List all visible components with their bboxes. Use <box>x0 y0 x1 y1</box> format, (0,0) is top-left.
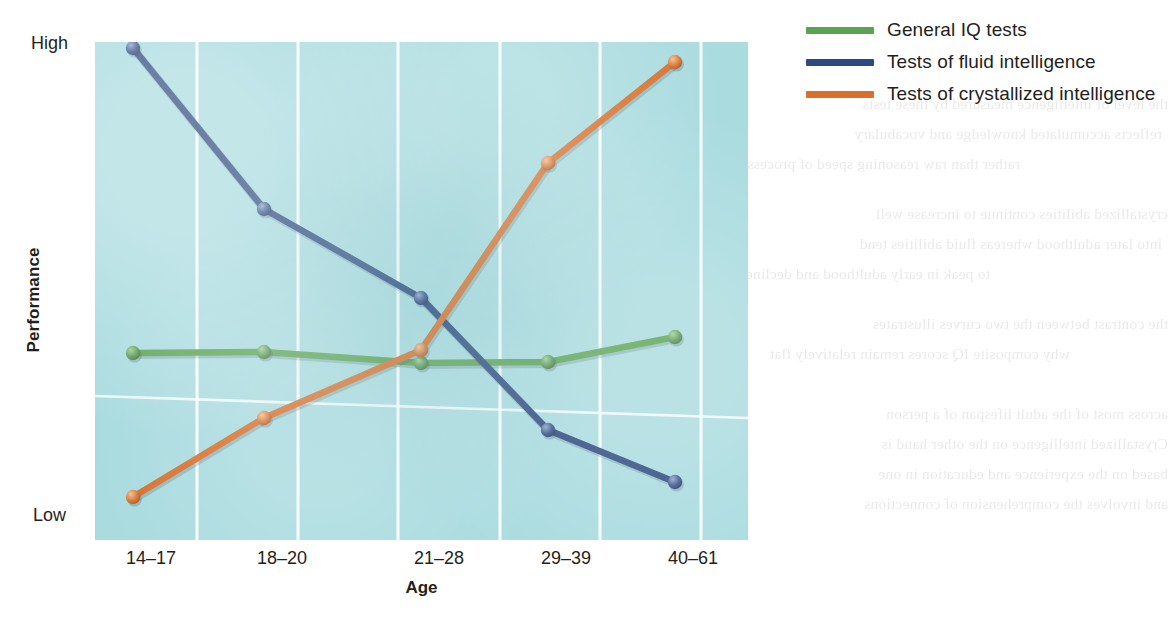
data-point-1-2[interactable] <box>414 291 428 305</box>
data-point-2-2[interactable] <box>414 343 428 357</box>
series-line-1 <box>133 48 675 482</box>
legend-label-fluid: Tests of fluid intelligence <box>887 51 1096 73</box>
series-line-shadow-1 <box>135 50 677 484</box>
data-point-0-3[interactable] <box>541 355 555 369</box>
legend-item-crystallized[interactable]: Tests of crystallized intelligence <box>806 82 1155 106</box>
data-point-1-1[interactable] <box>257 202 271 216</box>
x-tick-label-4: 40–61 <box>668 548 718 569</box>
y-axis-title: Performance <box>24 240 44 360</box>
data-point-1-3[interactable] <box>541 423 555 437</box>
plot-svg <box>95 42 748 540</box>
series-lines-group <box>133 48 677 499</box>
legend-swatch-fluid <box>806 59 874 66</box>
legend-label-crystallized: Tests of crystallized intelligence <box>887 83 1155 105</box>
x-axis-tick-labels: 14–1718–2021–2829–3940–61 <box>95 548 748 572</box>
data-point-2-3[interactable] <box>541 156 555 170</box>
horizontal-gridline <box>95 396 748 418</box>
legend-swatch-crystallized <box>806 91 874 98</box>
x-axis-title: Age <box>95 578 748 598</box>
legend-item-fluid[interactable]: Tests of fluid intelligence <box>806 50 1155 74</box>
chart-legend: General IQ testsTests of fluid intellige… <box>806 18 1155 106</box>
legend-swatch-general-iq <box>806 27 874 34</box>
x-tick-label-2: 21–28 <box>414 548 464 569</box>
legend-item-general-iq[interactable]: General IQ tests <box>806 18 1155 42</box>
data-point-0-0[interactable] <box>126 346 140 360</box>
data-point-2-1[interactable] <box>257 411 271 425</box>
data-point-2-0[interactable] <box>126 490 140 504</box>
data-point-2-4[interactable] <box>668 55 682 69</box>
legend-label-general-iq: General IQ tests <box>887 19 1027 41</box>
y-axis-low-label: Low <box>33 505 66 526</box>
data-point-0-4[interactable] <box>668 330 682 344</box>
x-tick-label-0: 14–17 <box>126 548 176 569</box>
data-point-0-1[interactable] <box>257 345 271 359</box>
x-tick-label-1: 18–20 <box>257 548 307 569</box>
plot-area <box>95 42 748 540</box>
data-point-1-4[interactable] <box>668 475 682 489</box>
figure-container: High Low Performance <box>0 0 1176 633</box>
y-axis-high-label: High <box>31 33 68 54</box>
series-line-2 <box>133 62 675 497</box>
x-tick-label-3: 29–39 <box>541 548 591 569</box>
